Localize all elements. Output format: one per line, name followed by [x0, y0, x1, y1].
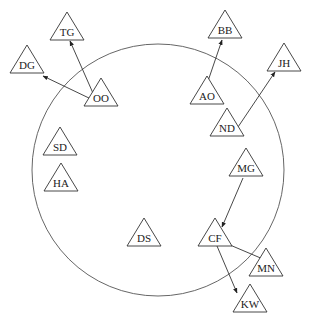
node-label: CF: [208, 232, 221, 244]
node-label: TG: [60, 26, 75, 38]
diagram-svg: TGDGOOBBJHAONDSDHAMGDSCFMNKW: [0, 0, 310, 320]
node-label: AO: [199, 90, 215, 102]
node-oo[interactable]: OO: [84, 78, 118, 106]
node-ao[interactable]: AO: [190, 76, 224, 104]
edge-ao-to-bb: [207, 40, 222, 84]
node-cf[interactable]: CF: [198, 218, 232, 246]
node-label: ND: [219, 122, 235, 134]
edge-cf-to-kw: [217, 246, 237, 293]
edge-mg-to-cf: [222, 178, 243, 227]
node-sd[interactable]: SD: [43, 127, 77, 155]
node-ha[interactable]: HA: [44, 163, 78, 191]
edge-oo-to-dg: [43, 76, 91, 99]
node-label: KW: [241, 298, 260, 310]
node-label: SD: [53, 141, 67, 153]
node-ds[interactable]: DS: [127, 218, 161, 246]
node-label: DS: [137, 232, 151, 244]
node-label: JH: [278, 57, 290, 69]
node-nd[interactable]: ND: [210, 108, 244, 136]
node-label: MG: [237, 162, 255, 174]
node-jh[interactable]: JH: [267, 43, 301, 71]
node-label: BB: [218, 24, 233, 36]
nodes: TGDGOOBBJHAONDSDHAMGDSCFMNKW: [10, 10, 301, 312]
node-label: HA: [53, 177, 69, 189]
node-label: MN: [257, 262, 275, 274]
node-label: DG: [19, 59, 35, 71]
node-dg[interactable]: DG: [10, 45, 44, 73]
node-mn[interactable]: MN: [249, 248, 283, 276]
network-diagram: TGDGOOBBJHAONDSDHAMGDSCFMNKW: [0, 0, 310, 320]
node-bb[interactable]: BB: [208, 10, 242, 38]
edge-nd-to-jh: [236, 72, 275, 130]
node-kw[interactable]: KW: [233, 284, 267, 312]
node-mg[interactable]: MG: [229, 148, 263, 176]
node-tg[interactable]: TG: [50, 12, 84, 40]
node-label: OO: [93, 92, 109, 104]
